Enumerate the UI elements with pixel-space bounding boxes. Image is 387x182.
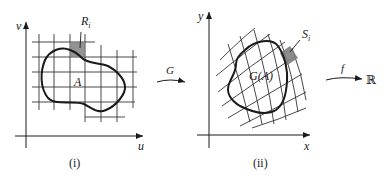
caption-ii: (ii) — [253, 156, 268, 170]
map-f-arrow — [326, 78, 362, 80]
region-label-a: A — [73, 75, 82, 89]
map-f: f ℝ — [326, 62, 377, 87]
region-label-ga: G(A) — [249, 69, 273, 83]
caption-i: (i) — [69, 156, 80, 170]
map-g-label: G — [166, 64, 174, 76]
cell-label-r: Ri — [80, 14, 91, 30]
panel-i: v u A Ri (i) — [15, 14, 144, 170]
pointer-s-i — [290, 40, 300, 52]
axis-label-x: x — [303, 139, 310, 153]
axis-label-v: v — [16, 19, 22, 33]
change-of-variables-diagram: v u A Ri (i) G — [0, 0, 387, 182]
map-g-arrow — [157, 80, 185, 82]
codomain-reals: ℝ — [366, 73, 377, 87]
map-g: G — [157, 64, 185, 82]
map-f-label: f — [341, 62, 346, 74]
cell-label-s: Si — [302, 27, 310, 43]
panel-ii: y x G(A) Si (ii) — [197, 9, 310, 170]
axis-label-u: u — [138, 139, 144, 153]
axis-label-y: y — [197, 9, 204, 23]
